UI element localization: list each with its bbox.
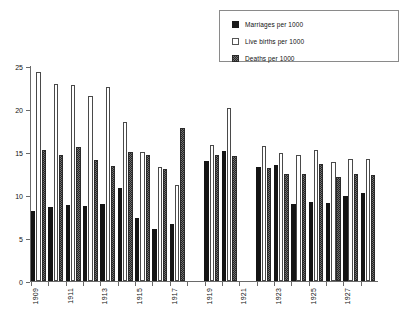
bar-deaths — [128, 152, 132, 281]
bar-marriages — [361, 193, 365, 281]
bar-births — [88, 96, 92, 281]
x-tick-mark — [187, 282, 188, 286]
bar-deaths — [94, 160, 98, 281]
bar-deaths — [302, 174, 306, 281]
bar-marriages — [66, 205, 70, 281]
bar-births — [314, 150, 318, 281]
legend-item-deaths: Deaths per 1000 — [232, 51, 398, 66]
solid-black-square-icon — [232, 21, 239, 28]
x-tick-mark — [309, 282, 310, 286]
bar-births — [227, 108, 231, 281]
bar-deaths — [215, 155, 219, 281]
x-tick-label: 1917 — [171, 288, 178, 304]
y-tick-label: 15 — [15, 150, 23, 157]
bar-births — [175, 185, 179, 281]
bar-deaths — [284, 174, 288, 282]
y-tick-label: 25 — [15, 64, 23, 71]
bar-chart: Marriages per 1000 Live births per 1000 … — [0, 0, 412, 328]
bar-group — [274, 66, 291, 281]
bar-marriages — [326, 203, 330, 281]
x-tick-mark — [135, 282, 136, 286]
x-tick-label: 1911 — [67, 288, 74, 304]
x-tick-mark — [83, 282, 84, 286]
x-tick-mark — [361, 282, 362, 286]
bar-marriages — [135, 218, 139, 281]
x-tick-label: 1909 — [32, 288, 39, 304]
x-tick-label: 1927 — [344, 288, 351, 304]
bar-births — [71, 85, 75, 281]
bar-series-container — [31, 66, 378, 281]
bar-marriages — [48, 207, 52, 281]
bar-births — [296, 155, 300, 281]
y-tick-label: 10 — [15, 193, 23, 200]
bar-group — [204, 66, 221, 281]
bar-group — [118, 66, 135, 281]
bar-marriages — [204, 161, 208, 281]
x-tick-mark — [118, 282, 119, 286]
bar-marriages — [100, 204, 104, 281]
y-tick-label: 5 — [19, 236, 23, 243]
bar-births — [106, 87, 110, 281]
plot-area: 0510152025 — [30, 66, 378, 282]
bar-group — [31, 66, 48, 281]
bar-deaths — [232, 156, 236, 281]
x-tick-label: 1921 — [240, 288, 247, 304]
x-tick-mark — [326, 282, 327, 286]
x-tick-label: 1919 — [206, 288, 213, 304]
legend-label-live-births: Live births per 1000 — [245, 38, 304, 45]
bar-deaths — [59, 155, 63, 281]
x-tick-mark — [48, 282, 49, 286]
bar-group — [83, 66, 100, 281]
bar-marriages — [274, 165, 278, 281]
bar-births — [140, 152, 144, 281]
bar-deaths — [42, 150, 46, 281]
legend-label-marriages: Marriages per 1000 — [245, 21, 303, 28]
bar-marriages — [152, 229, 156, 281]
bar-group — [48, 66, 65, 281]
bar-births — [36, 72, 40, 281]
bar-marriages — [83, 206, 87, 281]
bar-marriages — [118, 188, 122, 281]
x-tick-mark — [257, 282, 258, 286]
y-tick-label: 20 — [15, 107, 23, 114]
legend-label-deaths: Deaths per 1000 — [245, 55, 295, 62]
bar-group — [135, 66, 152, 281]
bar-group — [309, 66, 326, 281]
bar-group — [326, 66, 343, 281]
bar-group — [291, 66, 308, 281]
x-tick-mark — [343, 282, 344, 286]
x-axis-labels: 1909191119131915191719191921192319251927 — [30, 288, 378, 326]
bar-marriages — [256, 167, 260, 281]
bar-marriages — [222, 151, 226, 281]
bar-births — [210, 145, 214, 281]
bar-group — [256, 66, 273, 281]
x-tick-mark — [274, 282, 275, 286]
open-white-square-icon — [232, 38, 239, 45]
y-tick-mark — [26, 110, 30, 111]
bar-group — [222, 66, 239, 281]
bar-group — [66, 66, 83, 281]
y-tick-label: 0 — [19, 279, 23, 286]
bar-deaths — [111, 166, 115, 281]
x-tick-label: 1925 — [310, 288, 317, 304]
hatched-grey-square-icon — [232, 55, 239, 62]
bar-group — [239, 66, 256, 281]
bar-deaths — [267, 168, 271, 281]
x-tick-label: 1913 — [101, 288, 108, 304]
bar-deaths — [354, 174, 358, 281]
bar-deaths — [180, 128, 184, 281]
bar-group — [170, 66, 187, 281]
legend-item-live-births: Live births per 1000 — [232, 34, 398, 49]
bar-deaths — [146, 155, 150, 281]
bar-births — [54, 84, 58, 281]
bar-deaths — [319, 164, 323, 281]
legend-item-marriages: Marriages per 1000 — [232, 17, 398, 32]
bar-marriages — [343, 196, 347, 281]
bar-group — [343, 66, 360, 281]
x-tick-mark — [100, 282, 101, 286]
bar-deaths — [371, 175, 375, 281]
x-tick-mark — [31, 282, 32, 286]
bar-births — [158, 167, 162, 281]
x-tick-mark — [152, 282, 153, 286]
bar-births — [279, 153, 283, 281]
